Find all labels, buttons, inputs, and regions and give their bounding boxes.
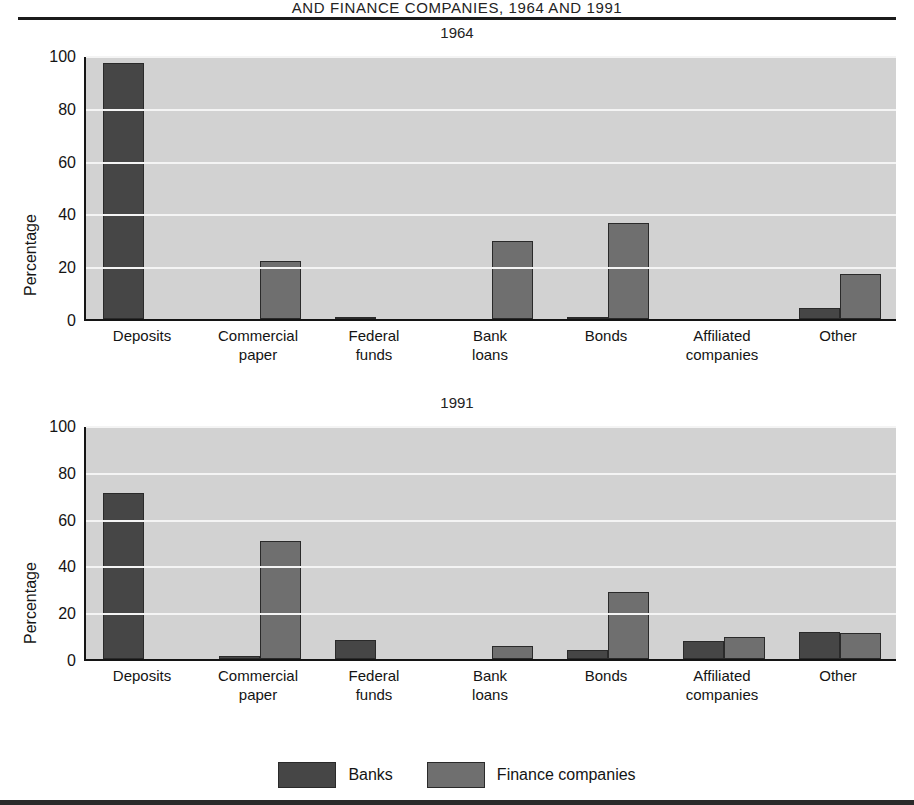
bar-1991-affiliated-companies-finance-companies <box>724 637 765 659</box>
finance-companies-swatch-icon <box>427 762 485 788</box>
gridline-40 <box>86 566 896 568</box>
gridline-20 <box>86 267 896 269</box>
y-tick-label-100: 100 <box>32 418 76 436</box>
legend-label-finance-companies: Finance companies <box>497 766 636 784</box>
panel-subtitle-1964: 1964 <box>0 24 914 41</box>
figure-title: AND FINANCE COMPANIES, 1964 AND 1991 <box>0 0 914 15</box>
bar-1964-commercial-paper-finance-companies <box>260 261 301 319</box>
y-tick-label-0: 0 <box>32 652 76 670</box>
bar-1964-bonds-banks <box>567 317 608 319</box>
y-axis-label-1964: Percentage <box>22 214 40 296</box>
y-tick-label-60: 60 <box>32 154 76 172</box>
bar-1991-bank-loans-finance-companies <box>492 646 533 659</box>
bar-1964-deposits-banks <box>103 63 144 319</box>
bottom-divider-rule <box>0 800 914 805</box>
legend-item-finance-companies: Finance companies <box>427 762 636 788</box>
x-category-label-other: Other <box>768 666 908 685</box>
bar-group-container-1991 <box>86 427 896 659</box>
y-tick-label-40: 40 <box>32 206 76 224</box>
gridline-40 <box>86 214 896 216</box>
plot-area-1991 <box>84 427 896 661</box>
banks-swatch-icon <box>278 762 336 788</box>
chart-panel-1991: 1991 Percentage 020406080100DepositsComm… <box>0 394 914 724</box>
bar-1964-bank-loans-finance-companies <box>492 241 533 319</box>
gridline-60 <box>86 520 896 522</box>
y-tick-label-20: 20 <box>32 259 76 277</box>
gridline-100 <box>86 56 896 58</box>
plot-area-1964 <box>84 57 896 321</box>
x-category-label-other: Other <box>768 326 908 345</box>
bar-1964-other-finance-companies <box>840 274 881 319</box>
chart-panel-1964: 1964 Percentage 020406080100DepositsComm… <box>0 24 914 384</box>
legend-item-banks: Banks <box>278 762 392 788</box>
bar-1964-bonds-finance-companies <box>608 223 649 319</box>
title-divider-rule <box>18 17 896 20</box>
bar-1991-deposits-banks <box>103 493 144 659</box>
panel-subtitle-1991: 1991 <box>0 394 914 411</box>
bar-1991-other-banks <box>799 632 840 659</box>
gridline-80 <box>86 109 896 111</box>
bar-1964-federal-funds-banks <box>335 317 376 319</box>
legend-label-banks: Banks <box>348 766 392 784</box>
bar-1991-federal-funds-banks <box>335 640 376 659</box>
gridline-100 <box>86 426 896 428</box>
chart-legend: Banks Finance companies <box>0 762 914 788</box>
bar-1964-other-banks <box>799 308 840 319</box>
bar-1991-commercial-paper-finance-companies <box>260 541 301 659</box>
y-tick-label-40: 40 <box>32 558 76 576</box>
gridline-80 <box>86 473 896 475</box>
gridline-20 <box>86 613 896 615</box>
bar-1991-bonds-banks <box>567 650 608 659</box>
bar-1991-commercial-paper-banks <box>219 656 260 660</box>
y-tick-label-20: 20 <box>32 605 76 623</box>
y-tick-label-0: 0 <box>32 312 76 330</box>
figure-title-block: AND FINANCE COMPANIES, 1964 AND 1991 <box>0 0 914 15</box>
y-tick-label-60: 60 <box>32 512 76 530</box>
bar-1991-bonds-finance-companies <box>608 592 649 659</box>
y-tick-label-100: 100 <box>32 48 76 66</box>
gridline-60 <box>86 162 896 164</box>
bar-1991-affiliated-companies-banks <box>683 641 724 659</box>
bar-group-container-1964 <box>86 57 896 319</box>
bar-1991-other-finance-companies <box>840 633 881 659</box>
y-tick-label-80: 80 <box>32 465 76 483</box>
y-tick-label-80: 80 <box>32 101 76 119</box>
